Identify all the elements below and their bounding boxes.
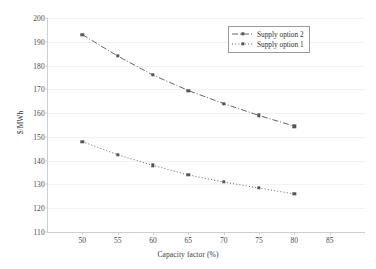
legend-item-supply-option-1: Supply option 1 xyxy=(232,39,304,49)
x-tick-label: 55 xyxy=(114,236,122,245)
legend-label: Supply option 2 xyxy=(257,30,304,39)
line-chart: 110120130140150160170180190200 505560657… xyxy=(0,0,376,269)
data-point-marker xyxy=(257,114,260,117)
x-tick-mark xyxy=(118,232,119,235)
y-axis-title: $/MWh xyxy=(16,93,25,153)
legend-key-dotted-icon xyxy=(232,40,254,48)
data-point-marker xyxy=(187,173,190,176)
x-tick-mark xyxy=(188,232,189,235)
x-tick-mark xyxy=(82,232,83,235)
x-tick-mark xyxy=(259,232,260,235)
plot-area xyxy=(47,18,365,232)
x-tick-label: 85 xyxy=(326,236,334,245)
data-point-marker xyxy=(116,54,119,57)
data-point-marker xyxy=(187,89,190,92)
x-tick-mark xyxy=(224,232,225,235)
data-point-marker xyxy=(116,153,119,156)
x-tick-mark xyxy=(294,232,295,235)
data-point-marker xyxy=(293,192,296,195)
series-lines xyxy=(47,18,365,232)
legend-label: Supply option 1 xyxy=(257,40,304,49)
x-tick-label: 80 xyxy=(291,236,299,245)
y-axis-line xyxy=(47,18,48,232)
x-tick-mark xyxy=(153,232,154,235)
x-tick-label: 60 xyxy=(149,236,157,245)
x-tick-label: 75 xyxy=(255,236,263,245)
x-axis-title: Capacity factor (%) xyxy=(0,250,376,259)
x-axis-line xyxy=(47,232,365,233)
data-point-marker xyxy=(151,73,154,76)
x-tick-mark xyxy=(330,232,331,235)
data-point-marker xyxy=(81,33,84,36)
data-point-marker xyxy=(222,180,225,183)
legend-key-dash-dot-icon xyxy=(232,30,254,38)
data-point-marker xyxy=(81,140,84,143)
x-tick-label: 50 xyxy=(79,236,87,245)
x-tick-label: 65 xyxy=(185,236,193,245)
legend: Supply option 2 Supply option 1 xyxy=(228,26,310,53)
x-tick-label: 70 xyxy=(220,236,228,245)
series-line xyxy=(82,142,294,194)
data-point-marker xyxy=(293,124,296,127)
data-point-marker xyxy=(151,164,154,167)
data-point-marker xyxy=(222,102,225,105)
data-point-marker xyxy=(257,186,260,189)
legend-item-supply-option-2: Supply option 2 xyxy=(232,29,304,39)
